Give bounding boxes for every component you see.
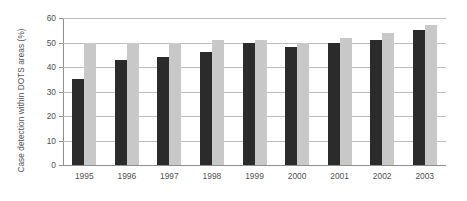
x-axis-label-2003: 2003 xyxy=(415,172,434,180)
bar-series-b-2003 xyxy=(425,25,437,165)
bar-series-a-1995 xyxy=(72,79,84,165)
x-axis-label-1997: 1997 xyxy=(160,172,179,180)
bar-chart: Case detection within DOTS areas (%) 010… xyxy=(0,0,467,201)
y-tick-label-0: 0 xyxy=(51,161,56,169)
bar-group-1999 xyxy=(243,18,267,165)
bar-group-2002 xyxy=(370,18,394,165)
y-tick-mark-10 xyxy=(59,141,63,142)
bar-group-2003 xyxy=(413,18,437,165)
x-axis-label-1998: 1998 xyxy=(203,172,222,180)
bar-group-1998 xyxy=(200,18,224,165)
y-tick-label-20: 20 xyxy=(47,112,56,120)
x-axis-label-2000: 2000 xyxy=(288,172,307,180)
bar-group-2000 xyxy=(285,18,309,165)
bar-series-b-1996 xyxy=(127,43,139,166)
bar-series-b-1998 xyxy=(212,40,224,165)
bar-series-b-2001 xyxy=(340,38,352,165)
x-axis-label-1999: 1999 xyxy=(245,172,264,180)
bar-group-1997 xyxy=(157,18,181,165)
bar-series-b-1995 xyxy=(84,43,96,166)
bar-series-a-2000 xyxy=(285,47,297,165)
bar-series-a-2002 xyxy=(370,40,382,165)
plot-area: 0102030405060 xyxy=(63,18,446,165)
y-tick-mark-60 xyxy=(59,18,63,19)
bar-series-a-1999 xyxy=(243,43,255,166)
y-tick-mark-40 xyxy=(59,67,63,68)
bar-series-b-1997 xyxy=(169,43,181,166)
x-axis-label-2002: 2002 xyxy=(373,172,392,180)
y-tick-label-40: 40 xyxy=(47,63,56,71)
gridline-0 xyxy=(63,165,446,166)
bar-group-2001 xyxy=(328,18,352,165)
bar-series-a-1997 xyxy=(157,57,169,165)
bar-series-a-2003 xyxy=(413,30,425,165)
y-tick-mark-0 xyxy=(59,165,63,166)
y-tick-label-30: 30 xyxy=(47,87,56,95)
y-tick-label-10: 10 xyxy=(47,136,56,144)
y-tick-mark-30 xyxy=(59,92,63,93)
y-tick-mark-50 xyxy=(59,43,63,44)
bar-series-b-2000 xyxy=(297,43,309,166)
bar-series-b-1999 xyxy=(255,40,267,165)
x-axis-label-2001: 2001 xyxy=(330,172,349,180)
y-tick-label-50: 50 xyxy=(47,38,56,46)
bar-group-1996 xyxy=(115,18,139,165)
x-axis-label-1995: 1995 xyxy=(75,172,94,180)
y-tick-mark-20 xyxy=(59,116,63,117)
bar-series-a-2001 xyxy=(328,43,340,166)
bar-series-a-1998 xyxy=(200,52,212,165)
x-axis-label-1996: 1996 xyxy=(118,172,137,180)
y-tick-label-60: 60 xyxy=(47,14,56,22)
bar-series-a-1996 xyxy=(115,60,127,165)
bar-group-1995 xyxy=(72,18,96,165)
y-axis-title: Case detection within DOTS areas (%) xyxy=(0,0,42,201)
bar-series-b-2002 xyxy=(382,33,394,165)
